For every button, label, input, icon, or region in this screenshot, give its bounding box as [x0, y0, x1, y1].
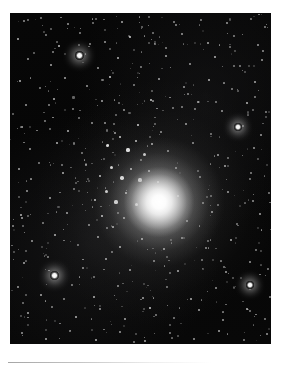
globular-cluster-photograph [10, 13, 271, 344]
caption-divider-rule [8, 362, 212, 363]
night-sky-background [10, 13, 271, 344]
page-root [0, 0, 285, 366]
